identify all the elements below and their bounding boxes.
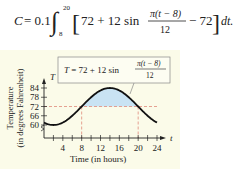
x-tick-label: 4 bbox=[61, 143, 66, 153]
y-axis-var: T bbox=[50, 72, 56, 82]
y-tick-label: 72 bbox=[30, 102, 39, 112]
equation-label-frac-num: π(t − 8) bbox=[137, 59, 161, 68]
x-tick-label: 8 bbox=[79, 143, 84, 153]
y-tick-label: 84 bbox=[30, 83, 40, 93]
y-tick-label: 60 bbox=[30, 120, 40, 130]
x-tick-label: 16 bbox=[115, 143, 125, 153]
equation-label-prefix: T = 72 + 12 sin bbox=[64, 65, 119, 75]
y-tick-label: 66 bbox=[30, 111, 40, 121]
x-tick-label: 20 bbox=[134, 143, 144, 153]
x-tick-label: 12 bbox=[96, 143, 105, 153]
equation-label-frac-den: 12 bbox=[146, 71, 154, 80]
x-axis-label: Time (in hours) bbox=[70, 154, 126, 164]
y-axis-label-line2: (in degrees Fahrenheit) bbox=[15, 68, 25, 147]
x-tick-label: 24 bbox=[153, 143, 163, 153]
temperature-chart: 4812162024 6066727884 T t Time (in hours… bbox=[0, 0, 236, 169]
y-axis-arrow-icon bbox=[42, 78, 46, 84]
x-axis-var: t bbox=[170, 133, 173, 143]
y-axis-label-line1: Temperature bbox=[5, 86, 15, 129]
x-axis-arrow-icon bbox=[160, 136, 166, 140]
y-tick-label: 78 bbox=[30, 92, 40, 102]
